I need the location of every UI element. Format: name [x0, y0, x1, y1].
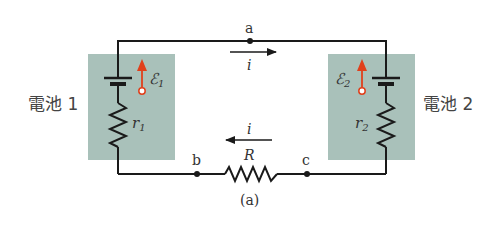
node-c-dot — [304, 171, 310, 177]
resistor-R — [225, 167, 277, 181]
battery-2-name: 電池 2 — [423, 94, 473, 114]
caption: (a) — [240, 192, 259, 208]
current-top-label: i — [247, 57, 251, 73]
current-bottom-label: i — [247, 121, 251, 137]
node-b-dot — [194, 171, 200, 177]
node-b-label: b — [192, 152, 201, 168]
node-c-label: c — [302, 152, 310, 168]
resistor-R-label: R — [243, 147, 255, 163]
battery-1-name: 電池 1 — [28, 94, 78, 114]
node-a-label: a — [245, 20, 253, 36]
node-a-dot — [247, 38, 253, 44]
battery-1-box — [88, 54, 175, 160]
circuit-diagram: a b c i i R (a) ℰ1 ℰ2 r1 r2 電池 1 電池 2 — [0, 0, 502, 225]
